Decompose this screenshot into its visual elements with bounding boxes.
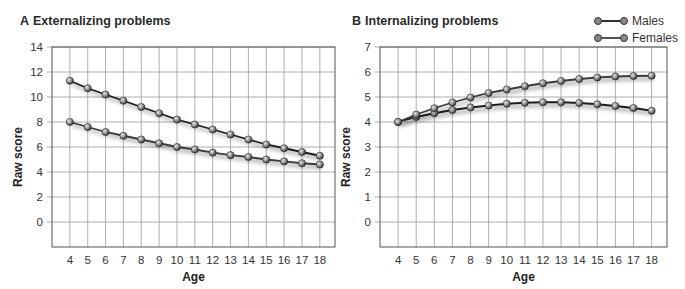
x-tick-label: 4 — [67, 254, 74, 266]
x-tick-label: 10 — [171, 254, 184, 266]
data-point-males — [209, 126, 216, 133]
data-point-females — [245, 153, 252, 160]
data-point-males — [173, 116, 180, 123]
x-tick-label: 12 — [206, 254, 219, 266]
data-point-males — [66, 77, 73, 84]
x-tick-label: 17 — [627, 254, 640, 266]
y-tick-label: 2 — [37, 191, 43, 203]
x-tick-label: 11 — [519, 254, 531, 266]
data-point-males — [227, 131, 234, 138]
x-tick-label: 5 — [413, 254, 419, 266]
data-point-males — [84, 85, 91, 92]
data-point-males — [485, 102, 492, 109]
x-tick-label: 12 — [537, 254, 550, 266]
y-tick-label: 0 — [365, 216, 371, 228]
x-tick-label: 9 — [156, 254, 162, 266]
y-tick-label: 4 — [37, 166, 44, 178]
data-point-females — [316, 161, 323, 168]
y-tick-label: 6 — [37, 141, 43, 153]
y-tick-label: 4 — [365, 116, 372, 128]
x-tick-label: 8 — [138, 254, 144, 266]
y-tick-label: 6 — [365, 66, 371, 78]
data-point-females — [227, 152, 234, 159]
x-axis-label: Age — [512, 270, 535, 284]
x-tick-label: 13 — [224, 254, 237, 266]
data-point-females — [539, 80, 546, 87]
data-point-females — [594, 74, 601, 81]
data-point-males — [557, 99, 564, 106]
data-point-females — [156, 140, 163, 147]
data-point-males — [281, 145, 288, 152]
data-point-females — [263, 156, 270, 163]
x-tick-label: 16 — [278, 254, 291, 266]
data-point-males — [245, 136, 252, 143]
x-tick-label: 14 — [242, 254, 255, 266]
data-point-males — [503, 100, 510, 107]
data-point-females — [66, 118, 73, 125]
y-tick-label: 0 — [37, 216, 43, 228]
data-point-females — [173, 143, 180, 150]
data-point-males — [191, 121, 198, 128]
x-tick-label: 8 — [467, 254, 473, 266]
x-tick-label: 4 — [395, 254, 402, 266]
data-point-females — [557, 77, 564, 84]
data-point-males — [298, 148, 305, 155]
x-tick-label: 7 — [120, 254, 126, 266]
y-tick-label: 8 — [37, 116, 43, 128]
data-point-males — [630, 104, 637, 111]
data-point-females — [612, 73, 619, 80]
data-point-males — [449, 106, 456, 113]
x-axis-label: Age — [182, 270, 205, 284]
data-point-females — [395, 118, 402, 125]
data-point-females — [449, 99, 456, 106]
data-point-males — [102, 91, 109, 98]
y-tick-label: 10 — [30, 91, 43, 103]
x-tick-label: 6 — [431, 254, 437, 266]
data-point-females — [576, 75, 583, 82]
x-tick-label: 14 — [573, 254, 586, 266]
y-axis-label: Raw score — [339, 127, 353, 187]
x-tick-label: 17 — [296, 254, 309, 266]
x-tick-label: 18 — [645, 254, 658, 266]
y-tick-label: 7 — [365, 41, 371, 53]
data-point-males — [648, 107, 655, 114]
y-tick-label: 3 — [365, 141, 371, 153]
data-point-females — [431, 105, 438, 112]
data-point-females — [298, 160, 305, 167]
data-point-males — [156, 110, 163, 117]
data-point-males — [467, 104, 474, 111]
x-tick-label: 15 — [260, 254, 273, 266]
x-tick-label: 10 — [500, 254, 513, 266]
x-tick-label: 18 — [313, 254, 326, 266]
y-tick-label: 14 — [30, 41, 43, 53]
data-point-males — [120, 97, 127, 104]
data-point-females — [503, 86, 510, 93]
data-point-males — [594, 101, 601, 108]
x-tick-label: 5 — [85, 254, 91, 266]
x-tick-label: 7 — [449, 254, 455, 266]
data-point-males — [612, 102, 619, 109]
x-tick-label: 13 — [555, 254, 568, 266]
y-tick-label: 5 — [365, 91, 371, 103]
data-point-females — [467, 94, 474, 101]
x-tick-label: 6 — [102, 254, 108, 266]
data-point-females — [120, 132, 127, 139]
data-point-males — [576, 99, 583, 106]
x-tick-label: 16 — [609, 254, 622, 266]
y-tick-label: 1 — [365, 191, 371, 203]
x-tick-label: 11 — [189, 254, 201, 266]
data-point-males — [539, 99, 546, 106]
data-point-males — [263, 141, 270, 148]
data-point-females — [84, 123, 91, 130]
data-point-females — [485, 89, 492, 96]
data-point-females — [102, 128, 109, 135]
charts-canvas: 02468101214456789101112131415161718AgeRa… — [0, 0, 685, 289]
data-point-females — [138, 136, 145, 143]
data-point-females — [209, 149, 216, 156]
data-point-males — [521, 99, 528, 106]
y-tick-label: 2 — [365, 166, 371, 178]
data-point-females — [281, 158, 288, 165]
data-point-females — [630, 72, 637, 79]
data-point-males — [138, 103, 145, 110]
data-point-females — [521, 83, 528, 90]
